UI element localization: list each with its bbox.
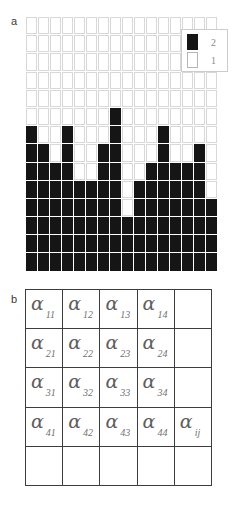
matrix-cell-value: α43: [105, 412, 128, 432]
grid-cell: [86, 72, 97, 89]
legend-box: 2 1: [181, 29, 228, 72]
grid-cell: [134, 199, 145, 216]
grid-cell: [158, 217, 169, 234]
matrix-cell-value: α22: [68, 333, 91, 353]
grid-cell: [26, 235, 37, 252]
grid-cell: [182, 163, 193, 180]
grid-cell: [50, 235, 61, 252]
grid-cell: [194, 108, 205, 125]
grid-cell: [98, 108, 109, 125]
matrix-cell: α13: [100, 290, 137, 329]
grid-cell: [50, 53, 61, 70]
grid-cell: [86, 90, 97, 107]
legend-swatch-filled-icon: [187, 34, 198, 50]
alpha-subscript: 33: [120, 387, 130, 398]
grid-cell: [170, 253, 181, 270]
grid-cell: [158, 108, 169, 125]
grid-cell: [110, 35, 121, 52]
grid-cell: [110, 53, 121, 70]
matrix-cell: α32: [63, 368, 100, 407]
panel-b: b α11α12α13α14α21α22α23α24α31α32α33α34α4…: [0, 278, 233, 505]
matrix-cell: [26, 447, 63, 486]
grid-cell: [38, 108, 49, 125]
matrix-cell-value: α24: [143, 333, 166, 353]
grid-cell: [62, 181, 73, 198]
grid-cell: [26, 72, 37, 89]
grid-cell: [50, 181, 61, 198]
grid-cell: [122, 235, 133, 252]
matrix-cell: [138, 447, 175, 486]
grid-cell: [146, 53, 157, 70]
grid-cell: [134, 181, 145, 198]
grid-cell: [74, 53, 85, 70]
grid-cell: [182, 90, 193, 107]
grid-cell: [146, 90, 157, 107]
alpha-subscript: 21: [46, 348, 56, 359]
grid-cell: [98, 181, 109, 198]
grid-cell: [74, 35, 85, 52]
matrix-cell: α33: [100, 368, 137, 407]
alpha-symbol: α: [68, 292, 81, 314]
grid-cell: [122, 144, 133, 161]
grid-cell: [110, 144, 121, 161]
grid-cell: [206, 108, 217, 125]
grid-cell: [110, 181, 121, 198]
grid-cell: [110, 163, 121, 180]
grid-cell: [86, 108, 97, 125]
grid-cell: [38, 35, 49, 52]
alpha-symbol: α: [31, 292, 44, 314]
grid-cell: [194, 217, 205, 234]
alpha-subscript: 44: [157, 427, 167, 438]
grid-cell: [38, 253, 49, 270]
matrix-cell: [100, 447, 137, 486]
grid-cell: [50, 163, 61, 180]
alpha-symbol: α: [31, 370, 44, 392]
grid-cell: [122, 35, 133, 52]
grid-cell: [146, 199, 157, 216]
grid-cell: [110, 126, 121, 143]
grid-cell: [86, 253, 97, 270]
grid-cell: [206, 199, 217, 216]
grid-cell: [146, 163, 157, 180]
grid-cell: [158, 199, 169, 216]
grid-cell: [206, 217, 217, 234]
grid-cell: [74, 90, 85, 107]
grid-cell: [170, 90, 181, 107]
grid-cell: [86, 35, 97, 52]
grid-cell: [194, 126, 205, 143]
panel-b-label: b: [11, 293, 17, 305]
grid-cell: [170, 17, 181, 34]
grid-cell: [146, 108, 157, 125]
grid-cell: [26, 108, 37, 125]
alpha-subscript: 13: [120, 309, 130, 320]
grid-cell: [110, 90, 121, 107]
matrix-cell: [175, 329, 212, 368]
grid-cell: [74, 217, 85, 234]
grid-cell: [62, 72, 73, 89]
grid-cell: [74, 17, 85, 34]
grid-cell: [62, 126, 73, 143]
grid-cell: [62, 90, 73, 107]
grid-cell: [122, 108, 133, 125]
legend-entry-1: 1: [187, 52, 216, 68]
grid-cell: [182, 144, 193, 161]
grid-cell: [134, 235, 145, 252]
grid-cell: [86, 144, 97, 161]
grid-cell: [26, 90, 37, 107]
alpha-subscript: 11: [46, 309, 55, 320]
grid-cell: [194, 144, 205, 161]
grid-cell: [110, 17, 121, 34]
matrix-cell: [175, 368, 212, 407]
grid-cell: [74, 108, 85, 125]
grid-cell: [50, 217, 61, 234]
grid-cell: [62, 144, 73, 161]
grid-cell: [206, 90, 217, 107]
grid-cell: [38, 53, 49, 70]
alpha-symbol: α: [105, 331, 118, 353]
grid-cell: [26, 217, 37, 234]
grid-cell: [122, 199, 133, 216]
grid-cell: [182, 181, 193, 198]
grid-cell: [98, 163, 109, 180]
grid-cell: [26, 53, 37, 70]
matrix-cell-value: α31: [31, 372, 54, 392]
